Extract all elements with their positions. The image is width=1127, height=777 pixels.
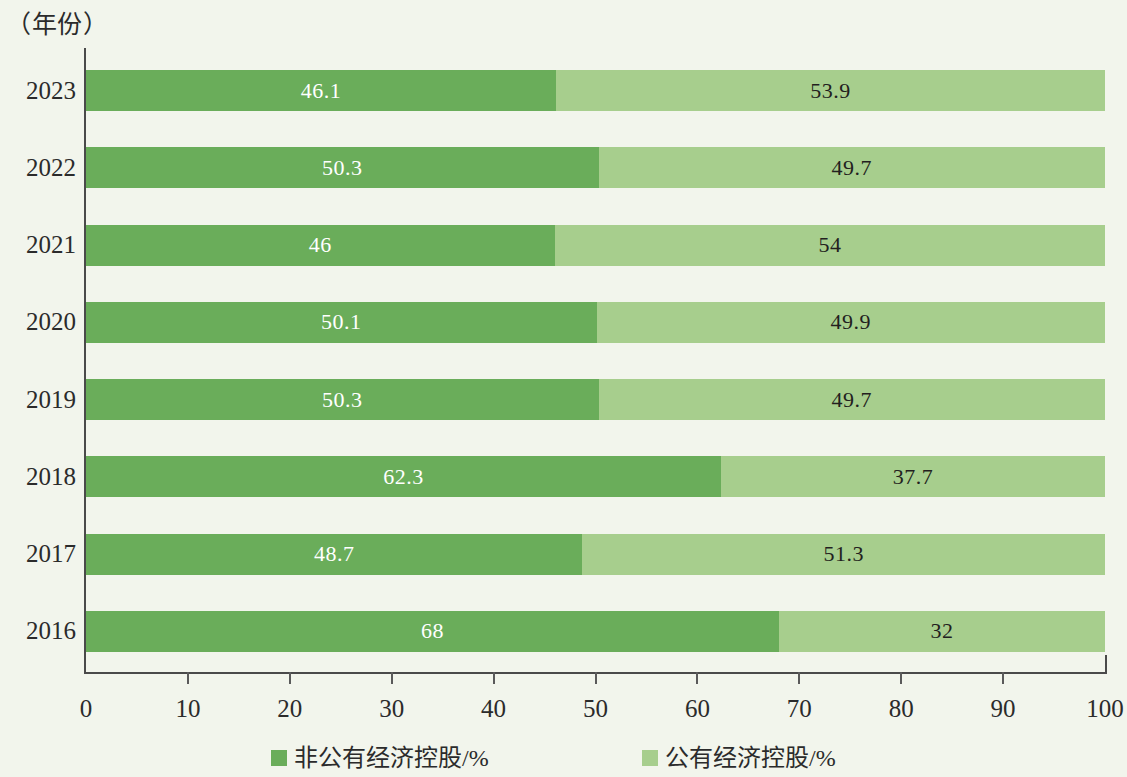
bar-value-label: 49.9 [831, 311, 872, 333]
bar-segment-private: 68 [86, 611, 779, 652]
x-axis-tick-label: 40 [481, 694, 506, 724]
bar-segment-private: 50.3 [86, 379, 599, 420]
x-axis-tick-mark [493, 672, 495, 684]
bar-segment-private: 50.1 [86, 302, 597, 343]
y-axis-tick-label: 2018 [0, 462, 76, 492]
bar-value-label: 46.1 [301, 80, 342, 102]
x-axis-tick-label: 100 [1086, 694, 1124, 724]
x-axis-tick-mark [1002, 672, 1004, 684]
bar-row: 48.751.3 [86, 534, 1105, 575]
bar-value-label: 53.9 [810, 80, 851, 102]
x-axis-end-cap [1105, 655, 1107, 674]
legend-swatch-icon [271, 750, 287, 766]
bar-value-label: 46 [309, 234, 332, 256]
x-axis-tick-label: 90 [991, 694, 1016, 724]
bar-segment-public: 37.7 [721, 456, 1105, 497]
bar-row: 62.337.7 [86, 456, 1105, 497]
x-axis-tick-mark [900, 672, 902, 684]
x-axis-tick-label: 0 [80, 694, 93, 724]
bar-value-label: 51.3 [823, 543, 864, 565]
legend-item[interactable]: 非公有经济控股/% [271, 744, 489, 772]
x-axis-tick-label: 30 [379, 694, 404, 724]
bar-value-label: 50.3 [322, 389, 363, 411]
stacked-bar-chart: （年份） 46.153.950.349.7465450.149.950.349.… [0, 0, 1127, 777]
bar-segment-private: 46 [86, 225, 555, 266]
x-axis-tick-mark [696, 672, 698, 684]
bar-segment-private: 48.7 [86, 534, 582, 575]
bar-row: 6832 [86, 611, 1105, 652]
y-axis-title: （年份） [6, 9, 108, 41]
bar-segment-public: 49.9 [597, 302, 1105, 343]
bar-row: 50.349.7 [86, 379, 1105, 420]
bar-segment-public: 49.7 [599, 147, 1105, 188]
bar-value-label: 62.3 [383, 466, 424, 488]
y-axis-tick-label: 2022 [0, 153, 76, 183]
legend-label: 非公有经济控股/% [294, 744, 489, 772]
plot-area: 46.153.950.349.7465450.149.950.349.762.3… [86, 52, 1105, 670]
y-axis-tick-label: 2023 [0, 76, 76, 106]
x-axis-tick-label: 10 [175, 694, 200, 724]
x-axis-tick-mark [187, 672, 189, 684]
bar-value-label: 50.1 [321, 311, 362, 333]
y-axis-tick-label: 2021 [0, 230, 76, 260]
bar-value-label: 37.7 [893, 466, 934, 488]
bar-value-label: 48.7 [314, 543, 355, 565]
bar-value-label: 50.3 [322, 157, 363, 179]
x-axis-tick-mark [595, 672, 597, 684]
bar-row: 4654 [86, 225, 1105, 266]
legend-swatch-icon [642, 750, 658, 766]
bar-segment-private: 46.1 [86, 70, 556, 111]
bar-row: 50.349.7 [86, 147, 1105, 188]
legend-item[interactable]: 公有经济控股/% [642, 744, 836, 772]
bar-value-label: 49.7 [832, 157, 873, 179]
x-axis-tick-label: 70 [787, 694, 812, 724]
x-axis-tick-label: 50 [583, 694, 608, 724]
bar-segment-private: 50.3 [86, 147, 599, 188]
bar-value-label: 54 [818, 234, 841, 256]
bar-value-label: 68 [421, 620, 444, 642]
bar-value-label: 32 [930, 620, 953, 642]
x-axis-tick-mark [391, 672, 393, 684]
y-axis-tick-label: 2019 [0, 385, 76, 415]
bar-segment-public: 54 [555, 225, 1105, 266]
bar-segment-public: 53.9 [556, 70, 1105, 111]
y-axis-tick-label: 2020 [0, 307, 76, 337]
legend-label: 公有经济控股/% [665, 744, 836, 772]
bar-segment-private: 62.3 [86, 456, 721, 497]
x-axis-tick-label: 80 [889, 694, 914, 724]
x-axis-tick-mark [289, 672, 291, 684]
chart-legend: 非公有经济控股/%公有经济控股/% [0, 744, 1127, 777]
x-axis-tick-mark [798, 672, 800, 684]
x-axis-tick-label: 60 [685, 694, 710, 724]
bar-segment-public: 49.7 [599, 379, 1105, 420]
x-axis-tick-label: 20 [277, 694, 302, 724]
y-axis-tick-label: 2016 [0, 616, 76, 646]
y-axis-tick-label: 2017 [0, 539, 76, 569]
bar-segment-public: 32 [779, 611, 1105, 652]
bar-segment-public: 51.3 [582, 534, 1105, 575]
bar-row: 50.149.9 [86, 302, 1105, 343]
bar-row: 46.153.9 [86, 70, 1105, 111]
bar-value-label: 49.7 [832, 389, 873, 411]
